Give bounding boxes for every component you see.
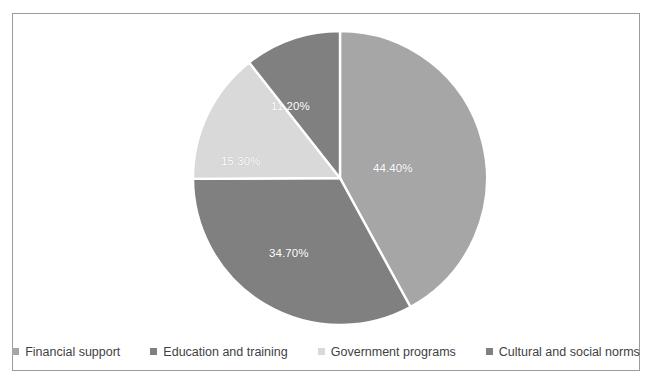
pie-data-label-financial-support: 44.40% <box>373 162 413 174</box>
pie-data-label-government-programs: 15.30% <box>221 155 261 167</box>
legend-item-financial-support[interactable]: Financial support <box>12 346 120 359</box>
legend-swatch-icon <box>150 348 157 355</box>
legend-swatch-icon <box>318 348 325 355</box>
legend-item-education-and-training[interactable]: Education and training <box>150 346 287 359</box>
pie-chart-svg <box>181 19 499 337</box>
legend-item-cultural-and-social-norms[interactable]: Cultural and social norms <box>486 346 640 359</box>
pie-chart-plot-area: 44.40% 34.70% 15.30% 11.20% Financial su… <box>13 14 639 370</box>
chart-frame: 44.40% 34.70% 15.30% 11.20% Financial su… <box>12 13 640 371</box>
legend-item-government-programs[interactable]: Government programs <box>318 346 456 359</box>
legend-item-label: Cultural and social norms <box>499 346 640 359</box>
legend-swatch-icon <box>12 348 19 355</box>
pie-data-label-education-and-training: 11.20% <box>271 100 310 112</box>
legend-item-label: Government programs <box>331 346 456 359</box>
legend-swatch-icon <box>486 348 493 355</box>
legend-item-label: Financial support <box>25 346 120 359</box>
legend-item-label: Education and training <box>163 346 287 359</box>
pie-data-label-cultural-and-social-norms: 34.70% <box>269 247 309 259</box>
chart-legend: Financial support Education and training… <box>13 346 639 359</box>
